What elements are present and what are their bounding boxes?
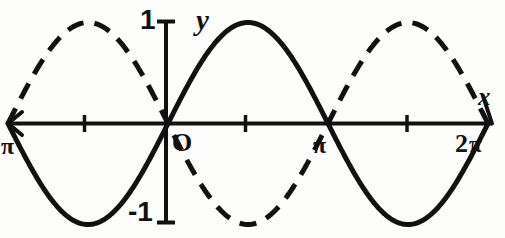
y-tick-label-one: 1 — [140, 6, 156, 34]
x-tick-label-left-pi: π — [1, 134, 14, 158]
y-tick-label-minus-one: -1 — [128, 198, 153, 226]
x-tick-label-mid-pi: π — [313, 133, 326, 157]
y-axis-label: y — [196, 6, 209, 35]
sine-graph-figure: y x 1 -1 O π π 2π — [0, 0, 505, 238]
plot-canvas — [0, 0, 505, 238]
x-tick-label-two-pi: 2π — [455, 131, 482, 157]
x-axis-label: x — [478, 84, 491, 109]
two-pi-number: 2 — [455, 129, 468, 158]
origin-label: O — [172, 130, 192, 156]
two-pi-symbol: π — [468, 132, 482, 157]
